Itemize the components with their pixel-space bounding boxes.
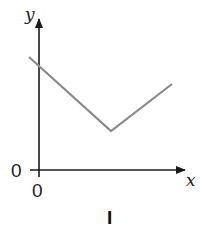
x-origin-label: 0 (32, 181, 43, 200)
y-origin-label: 0 (11, 161, 22, 180)
graph-canvas (0, 0, 200, 230)
panel-label: I (107, 208, 112, 227)
graph-line (29, 57, 172, 131)
y-axis-label: y (25, 6, 35, 23)
x-axis-label: x (186, 172, 196, 189)
graph-figure: y x 0 0 I (0, 0, 200, 230)
